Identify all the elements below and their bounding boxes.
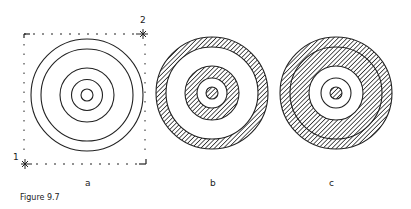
panel-a	[21, 29, 148, 169]
figure-diagram	[0, 0, 411, 209]
marker-label-2: 2	[140, 16, 146, 25]
panel-label-c: c	[329, 179, 334, 188]
panel-b	[156, 37, 268, 149]
star-marker-1	[21, 159, 32, 169]
dashed-frame	[24, 34, 146, 164]
figure-caption: Figure 9.7	[20, 193, 60, 202]
concentric-circles	[31, 39, 143, 151]
panel-label-a: a	[85, 179, 91, 188]
marker-label-1: 1	[13, 153, 19, 162]
panel-label-b: b	[210, 179, 216, 188]
panel-c	[280, 37, 392, 149]
star-marker-2	[136, 29, 148, 39]
